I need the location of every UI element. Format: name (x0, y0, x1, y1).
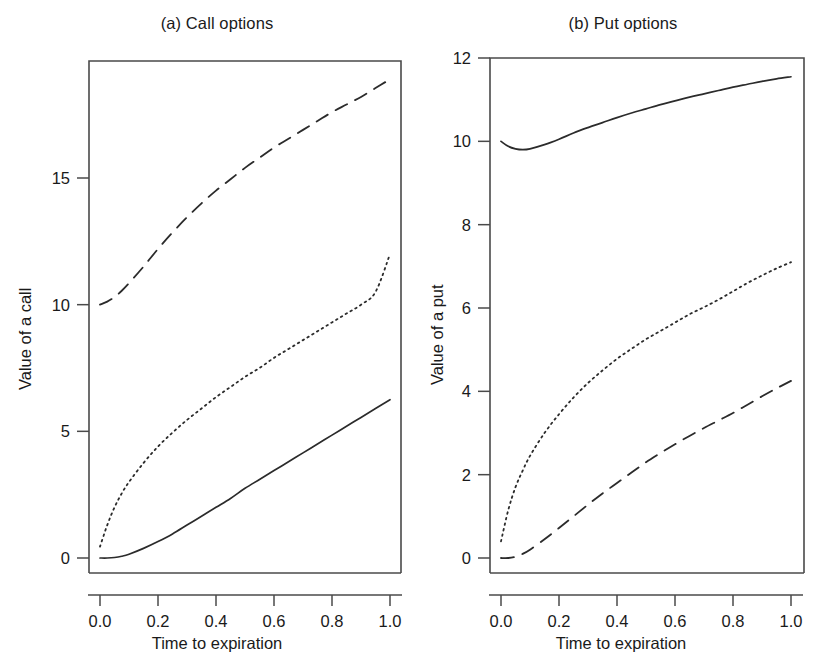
svg-text:0: 0 (462, 549, 471, 567)
y-axis-label-b: Value of a put (428, 284, 447, 385)
svg-text:8: 8 (462, 216, 471, 234)
svg-text:1.0: 1.0 (780, 612, 803, 630)
y-axis-label-a: Value of a call (16, 288, 35, 390)
svg-text:0.2: 0.2 (147, 612, 170, 630)
x-axis-label-b: Time to expiration (412, 634, 824, 653)
x-axis-label-a: Time to expiration (0, 634, 412, 653)
svg-text:0.0: 0.0 (89, 612, 112, 630)
svg-text:0.4: 0.4 (205, 612, 228, 630)
plot-area-call-options: 0.00.20.40.60.81.0051015 (0, 0, 412, 669)
svg-text:0.8: 0.8 (321, 612, 344, 630)
data-series-solid (501, 77, 791, 150)
svg-text:1.0: 1.0 (379, 612, 402, 630)
svg-text:4: 4 (462, 382, 471, 400)
svg-text:0.8: 0.8 (722, 612, 745, 630)
data-series-dashed (100, 79, 390, 304)
data-series-solid (100, 400, 390, 558)
svg-text:0: 0 (61, 549, 70, 567)
svg-text:10: 10 (453, 132, 471, 150)
svg-text:0.0: 0.0 (490, 612, 513, 630)
plot-area-put-options: 0.00.20.40.60.81.0024681012 (412, 0, 824, 669)
data-series-dotted (501, 262, 791, 541)
svg-text:5: 5 (61, 422, 70, 440)
data-series-dashed (501, 381, 791, 558)
figure-canvas: (a) Call options 0.00.20.40.60.81.005101… (0, 0, 824, 669)
svg-text:0.6: 0.6 (263, 612, 286, 630)
svg-text:6: 6 (462, 299, 471, 317)
chart-panel-call-options: (a) Call options 0.00.20.40.60.81.005101… (0, 0, 412, 669)
chart-panel-put-options: (b) Put options 0.00.20.40.60.81.0024681… (412, 0, 824, 669)
svg-text:0.2: 0.2 (548, 612, 571, 630)
svg-text:0.4: 0.4 (606, 612, 629, 630)
svg-text:15: 15 (52, 169, 70, 187)
svg-text:12: 12 (453, 49, 471, 67)
svg-text:10: 10 (52, 296, 70, 314)
data-series-dotted (100, 254, 390, 547)
svg-text:2: 2 (462, 466, 471, 484)
svg-text:0.6: 0.6 (664, 612, 687, 630)
